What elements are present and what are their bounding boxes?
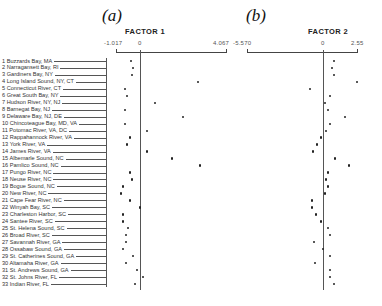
factor-1-data-point [182, 116, 184, 118]
factor-1-data-point [146, 130, 148, 132]
site-label: 26 Broad River, SC [2, 232, 50, 239]
factor-2-data-point [315, 213, 317, 215]
site-label: 29 St. Catherines Sound, GA [2, 253, 74, 260]
site-label: 6 Great South Bay, NY [2, 92, 58, 99]
factor-2-zero-label: 0 [321, 40, 325, 46]
factor-2-data-point [311, 206, 313, 208]
factor-1-data-point [122, 220, 124, 222]
site-leader-line [64, 200, 106, 201]
factor-1-data-point [127, 227, 129, 229]
site-label: 5 Connecticut River, CT [2, 85, 61, 92]
factor-2-data-point [324, 102, 326, 104]
site-leader-line [61, 166, 106, 167]
site-leader-line [68, 214, 106, 215]
factor-1-data-point [139, 206, 141, 208]
site-label: 12 Rappahannock River, VA [2, 134, 72, 141]
factor-1-data-point [132, 67, 134, 69]
site-leader-line [66, 159, 106, 160]
site-leader-line [59, 277, 106, 278]
factor-2-data-point [324, 192, 326, 194]
site-leader-line [67, 228, 106, 229]
factor-1-x-axis [116, 52, 227, 53]
factor-2-max-tick [357, 49, 358, 53]
site-leader-line [76, 256, 106, 257]
factor-1-data-point [122, 213, 124, 215]
site-leader-line [79, 124, 106, 125]
site-label: 15 Albemarle Sound, NC [2, 155, 64, 162]
factor-2-data-point [313, 241, 315, 243]
factor-1-min-tick [116, 49, 117, 53]
site-leader-line [62, 242, 106, 243]
factor-2-data-point [329, 269, 331, 271]
factor-1-data-point [124, 123, 126, 125]
factor-1-data-point [126, 95, 128, 97]
site-label: 2 Narragansett Bay, RI [2, 64, 58, 71]
factor-2-data-point [329, 276, 331, 278]
factor-2-data-point [334, 157, 336, 159]
factor-2-min-tick [247, 49, 248, 53]
factor-1-data-point [122, 185, 124, 187]
panel-label-b: (b) [246, 6, 266, 26]
factor-1-data-point [129, 199, 131, 201]
factor-2-x-axis [247, 52, 358, 53]
factor-1-data-point [197, 81, 199, 83]
factor-2-data-point [325, 130, 327, 132]
factor-2-data-point [327, 109, 329, 111]
factor-2-data-point [333, 74, 335, 76]
site-bracket-line [106, 58, 107, 287]
factor-1-data-point [130, 60, 132, 62]
site-leader-line [57, 186, 106, 187]
factor-2-data-point [329, 95, 331, 97]
factor-2-title: FACTOR 2 [308, 27, 348, 36]
site-label: 9 Delaware Bay, NJ, DE [2, 113, 62, 120]
factor-2-data-point [327, 227, 329, 229]
site-leader-line [55, 221, 106, 222]
site-leader-line [69, 131, 106, 132]
site-leader-line [53, 179, 106, 180]
factor-1-max-label: 4.067 [213, 40, 229, 46]
factor-1-data-point [142, 276, 144, 278]
factor-2-data-point [344, 116, 346, 118]
factor-1-data-point [136, 269, 138, 271]
factor-2-data-point [311, 199, 313, 201]
site-leader-line [54, 61, 106, 62]
factor-1-data-point [134, 283, 136, 285]
site-leader-line [64, 249, 106, 250]
factor-2-data-point [333, 60, 335, 62]
site-leader-line [60, 68, 106, 69]
factor-1-data-point [171, 157, 173, 159]
factor-2-data-point [309, 88, 311, 90]
site-leader-line [63, 89, 106, 90]
site-label: 3 Gardiners Bay, NY [2, 71, 53, 78]
site-label: 27 Savannah River, GA [2, 239, 60, 246]
factor-1-data-point [129, 171, 131, 173]
site-leader-line [71, 270, 106, 271]
factor-2-data-point [356, 81, 358, 83]
factor-1-data-point [131, 178, 133, 180]
site-leader-line [48, 193, 106, 194]
factor-1-data-point [124, 109, 126, 111]
site-label: 7 Hudson River, NY, NJ [2, 99, 60, 106]
factor-2-data-point [329, 123, 331, 125]
site-label: 1 Buzzards Bay, MA [2, 58, 52, 65]
site-leader-line [52, 207, 106, 208]
factor-1-max-tick [226, 49, 227, 53]
site-label: 19 Bogue Sound, NC [2, 183, 55, 190]
factor-2-zero-line [323, 50, 324, 290]
factor-2-data-point [329, 234, 331, 236]
site-label: 31 St. Andrews Sound, GA [2, 267, 69, 274]
site-leader-line [60, 96, 106, 97]
site-leader-line [74, 138, 106, 139]
factor-1-data-point [146, 150, 148, 152]
factor-1-title: FACTOR 1 [125, 27, 165, 36]
panel-label-a: (a) [102, 6, 122, 26]
site-leader-line [52, 235, 106, 236]
factor-2-data-point [320, 220, 322, 222]
site-label: 21 Cape Fear River, NC [2, 197, 62, 204]
factor-2-data-point [327, 171, 329, 173]
factor-2-data-point [320, 136, 322, 138]
site-leader-line [47, 145, 106, 146]
factor-2-max-label: 2.55 [351, 40, 363, 46]
factor-2-data-point [325, 178, 327, 180]
site-leader-line [64, 117, 106, 118]
